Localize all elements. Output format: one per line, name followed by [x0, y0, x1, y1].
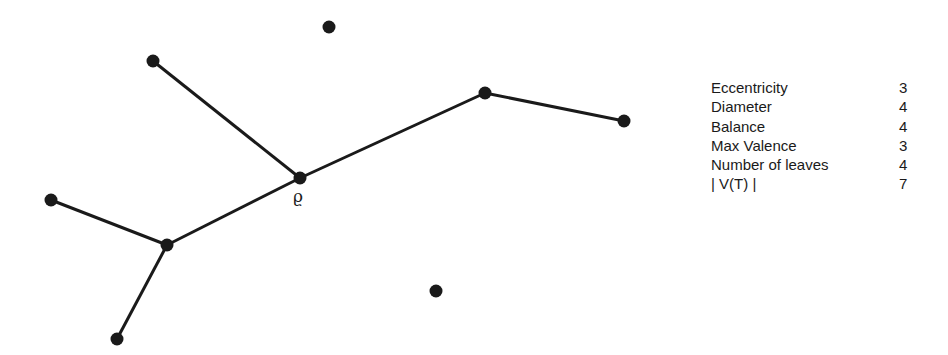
property-value: 4 — [899, 155, 907, 174]
root-label: ϱ — [293, 186, 303, 206]
tree-node — [618, 115, 631, 128]
property-value: 3 — [899, 78, 907, 97]
property-label: | V(T) | — [711, 174, 756, 193]
tree-edge — [153, 61, 300, 178]
tree-node — [479, 87, 492, 100]
tree-node — [161, 239, 174, 252]
property-row-diameter: Diameter 4 — [711, 97, 911, 116]
property-row-eccentricity: Eccentricity 3 — [711, 78, 911, 97]
tree-node — [323, 21, 336, 34]
property-value: 7 — [899, 174, 907, 193]
tree-edge — [167, 178, 300, 245]
properties-table: Eccentricity 3 Diameter 4 Balance 4 Max … — [711, 78, 911, 194]
tree-node — [147, 55, 160, 68]
property-row-balance: Balance 4 — [711, 117, 911, 136]
property-row-vertex-count: | V(T) | 7 — [711, 174, 911, 193]
property-label: Max Valence — [711, 136, 797, 155]
property-label: Eccentricity — [711, 78, 788, 97]
property-label: Number of leaves — [711, 155, 829, 174]
tree-edge — [300, 93, 485, 178]
tree-nodes — [45, 21, 631, 346]
tree-edge — [51, 200, 167, 245]
root-node — [294, 172, 307, 185]
tree-node — [430, 285, 443, 298]
property-row-number-of-leaves: Number of leaves 4 — [711, 155, 911, 174]
property-row-max-valence: Max Valence 3 — [711, 136, 911, 155]
tree-edge — [117, 245, 167, 339]
property-label: Diameter — [711, 97, 772, 116]
property-value: 4 — [899, 117, 907, 136]
property-value: 3 — [899, 136, 907, 155]
property-label: Balance — [711, 117, 765, 136]
tree-node — [111, 333, 124, 346]
tree-node — [45, 194, 58, 207]
property-value: 4 — [899, 97, 907, 116]
tree-edges — [51, 61, 624, 339]
tree-edge — [485, 93, 624, 121]
